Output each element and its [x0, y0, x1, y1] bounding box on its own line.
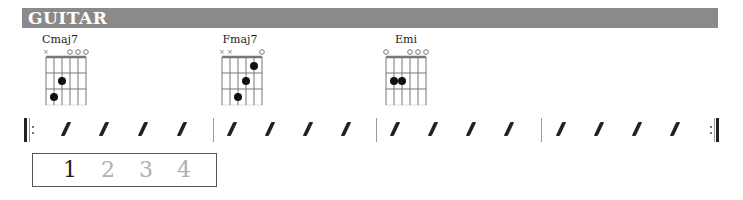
chord-diagram-emi: Emi	[376, 33, 436, 113]
barline	[541, 118, 542, 142]
beat-slash	[632, 122, 643, 136]
beat-slash	[504, 122, 515, 136]
beat-slash	[428, 122, 439, 136]
barline	[213, 118, 214, 142]
beat-slash	[177, 122, 188, 136]
chord-grid-icon: ×	[36, 47, 96, 113]
chord-grid-icon	[376, 47, 436, 113]
svg-text:×: ×	[43, 48, 49, 56]
beat-count-3: 3	[139, 156, 153, 184]
rhythm-staff	[0, 116, 743, 146]
beat-slash	[594, 122, 605, 136]
beat-slash	[303, 122, 314, 136]
beat-count-4: 4	[177, 156, 191, 184]
section-title: GUITAR	[28, 8, 107, 28]
beat-slash	[99, 122, 110, 136]
chord-name: Cmaj7	[30, 33, 90, 46]
section-header: GUITAR	[22, 8, 718, 28]
beat-slash	[390, 122, 401, 136]
beat-slash	[556, 122, 567, 136]
beat-slash	[341, 122, 352, 136]
beat-count-2: 2	[101, 156, 115, 184]
beat-slash	[265, 122, 276, 136]
beat-count-1: 1	[63, 156, 77, 184]
beat-slash	[61, 122, 72, 136]
beat-counter: 1 2 3 4	[32, 153, 217, 187]
beat-slash	[227, 122, 238, 136]
beat-slash	[138, 122, 149, 136]
svg-text:×: ×	[227, 48, 233, 56]
chord-name: Fmaj7	[210, 33, 270, 46]
chord-grid-icon: × ×	[212, 47, 272, 113]
chord-name: Emi	[376, 33, 436, 46]
barline	[376, 118, 377, 142]
beat-slash	[670, 122, 681, 136]
chord-diagram-fmaj7: Fmaj7 × ×	[212, 33, 272, 113]
svg-text:×: ×	[219, 48, 225, 56]
chord-diagram-cmaj7: Cmaj7 ×	[36, 33, 96, 113]
beat-slash	[466, 122, 477, 136]
